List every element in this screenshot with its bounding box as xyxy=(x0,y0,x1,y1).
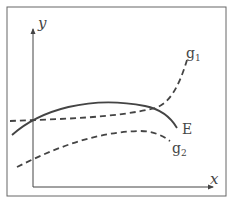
diagram-canvas: y x g1 E g2 xyxy=(0,0,232,203)
label-g2: g2 xyxy=(172,140,187,158)
diagram-figure: y x g1 E g2 xyxy=(0,0,232,203)
curve-g2 xyxy=(17,131,170,167)
label-e: E xyxy=(182,121,192,137)
label-g1: g1 xyxy=(186,45,201,63)
x-axis-label: x xyxy=(210,170,219,188)
frame-border xyxy=(7,7,226,196)
curve-e xyxy=(12,102,177,135)
y-axis-label: y xyxy=(37,14,47,32)
